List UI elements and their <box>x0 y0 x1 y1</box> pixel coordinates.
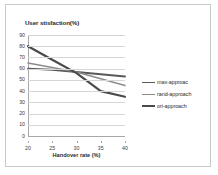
chart-figure-frame: User stisfaction(%) 0102030405060708090 … <box>5 4 211 167</box>
x-axis-tick-labels: 2025303540 <box>28 141 125 151</box>
legend-entry[interactable]: rand-approach <box>142 88 214 100</box>
y-tick-label: 80 <box>19 44 25 49</box>
x-tick-label: 25 <box>49 145 55 151</box>
gridline <box>28 125 125 126</box>
x-tick-mark <box>28 141 29 143</box>
legend-entry[interactable]: max-approac <box>142 76 214 88</box>
y-tick-label: 50 <box>19 77 25 82</box>
legend-label: ori-approach <box>157 103 187 109</box>
x-tick-mark <box>77 141 78 143</box>
gridline <box>28 46 125 47</box>
legend-label: max-approac <box>157 79 188 85</box>
y-tick-label: 70 <box>19 55 25 60</box>
y-tick-label: 30 <box>19 100 25 105</box>
y-tick-label: 10 <box>19 122 25 127</box>
gridline <box>28 136 125 137</box>
gridline <box>28 91 125 92</box>
x-axis-title: Handover rate (%) <box>28 152 125 158</box>
y-tick-label: 60 <box>19 66 25 71</box>
x-tick-mark <box>125 141 126 143</box>
x-tick-label: 40 <box>122 145 128 151</box>
legend-color-swatch <box>142 105 155 107</box>
gridline <box>28 69 125 70</box>
chart-title: User stisfaction(%) <box>25 19 79 26</box>
legend-label: rand-approach <box>157 91 191 97</box>
legend-entry[interactable]: ori-approach <box>142 100 214 112</box>
gridline <box>28 80 125 81</box>
gridline <box>28 102 125 103</box>
x-tick-label: 20 <box>25 145 31 151</box>
x-tick-mark <box>52 141 53 143</box>
legend-color-swatch <box>142 82 155 83</box>
x-tick-mark <box>101 141 102 143</box>
y-tick-label: 20 <box>19 111 25 116</box>
series-lines-group <box>28 35 125 136</box>
gridline <box>28 35 125 36</box>
x-tick-label: 35 <box>98 145 104 151</box>
y-axis-tick-labels: 0102030405060708090 <box>10 5 25 175</box>
gridline <box>28 114 125 115</box>
legend-color-swatch <box>142 94 155 95</box>
x-tick-label: 30 <box>74 145 80 151</box>
y-tick-label: 40 <box>19 89 25 94</box>
chart-legend: max-approacrand-approachori-approach <box>142 76 214 112</box>
gridline <box>28 57 125 58</box>
y-tick-label: 0 <box>22 134 25 139</box>
y-tick-label: 90 <box>19 33 25 38</box>
plot-area <box>28 35 125 136</box>
